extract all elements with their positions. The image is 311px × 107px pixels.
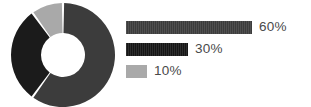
legend-item-30[interactable]: 30% bbox=[126, 42, 306, 56]
chart-legend: 60% 30% 10% bbox=[126, 20, 306, 86]
legend-swatch-bar-60 bbox=[126, 21, 252, 34]
donut-chart bbox=[11, 3, 115, 107]
legend-item-10[interactable]: 10% bbox=[126, 64, 306, 78]
legend-swatch-bar-10 bbox=[126, 65, 147, 78]
legend-label-10: 10% bbox=[154, 64, 182, 78]
donut-chart-svg bbox=[11, 3, 115, 107]
donut-slice-group bbox=[11, 3, 115, 107]
legend-label-30: 30% bbox=[195, 42, 223, 56]
legend-label-60: 60% bbox=[259, 20, 287, 34]
donut-chart-figure: 60% 30% 10% bbox=[0, 0, 311, 107]
legend-item-60[interactable]: 60% bbox=[126, 20, 306, 34]
legend-swatch-bar-30 bbox=[126, 43, 188, 56]
